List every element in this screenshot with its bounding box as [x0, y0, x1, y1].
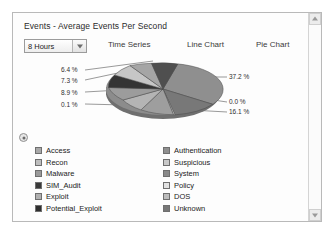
- scrollbar-track[interactable]: [309, 25, 321, 209]
- legend-label: Recon: [46, 159, 68, 167]
- legend-item-exploit[interactable]: Exploit: [35, 191, 163, 203]
- legend-item-authentication[interactable]: Authentication: [163, 145, 291, 157]
- pie-label-right-0: 37.2 %: [229, 73, 249, 80]
- time-range-value: 8 Hours: [25, 42, 54, 51]
- chevron-down-icon[interactable]: [72, 40, 86, 52]
- time-range-select[interactable]: 8 Hours: [24, 39, 87, 53]
- legend-swatch-icon: [35, 147, 42, 154]
- legend-swatch-icon: [35, 159, 42, 166]
- legend-label: System: [174, 170, 199, 178]
- legend-item-unknown[interactable]: Unknown: [163, 203, 291, 215]
- legend-swatch-icon: [163, 193, 170, 200]
- legend-label: Suspicious: [174, 159, 210, 167]
- legend-item-system[interactable]: System: [163, 168, 291, 180]
- legend-swatch-icon: [35, 182, 42, 189]
- legend-swatch-icon: [35, 170, 42, 177]
- tab-line-chart[interactable]: Line Chart: [187, 40, 224, 49]
- legend-item-dos[interactable]: DOS: [163, 191, 291, 203]
- vertical-scrollbar[interactable]: [308, 13, 321, 221]
- legend-label: Potential_Exploit: [46, 205, 102, 213]
- pie-chart: 6.4 % 7.3 % 8.9 % 0.1 % 37.2 % 0.0 % 16.…: [13, 59, 309, 131]
- screenshot-root: Events - Average Events Per Second 8 Hou…: [0, 0, 336, 246]
- chart-toolbar: 8 Hours Time Series Line Chart Pie Chart: [24, 39, 304, 55]
- page-title: Events - Average Events Per Second: [24, 21, 167, 31]
- chart-legend: Access Recon Malware SIM_Audit Exploit: [35, 145, 297, 214]
- pie-label-left-0: 6.4 %: [61, 66, 78, 73]
- legend-item-policy[interactable]: Policy: [163, 180, 291, 192]
- legend-column-right: Authentication Suspicious System Policy …: [163, 145, 291, 214]
- pie-label-right-1: 0.0 %: [229, 98, 246, 105]
- legend-item-recon[interactable]: Recon: [35, 157, 163, 169]
- legend-label: Authentication: [174, 147, 222, 155]
- pie-label-left-1: 7.3 %: [61, 77, 78, 84]
- legend-item-potential-exploit[interactable]: Potential_Exploit: [35, 203, 163, 215]
- collapse-circle-icon[interactable]: [19, 133, 28, 142]
- pie-label-right-2: 16.1 %: [229, 108, 249, 115]
- legend-swatch-icon: [163, 147, 170, 154]
- pie-chart-graphic: [13, 59, 309, 131]
- scroll-up-arrow-icon[interactable]: [309, 13, 321, 25]
- legend-label: Exploit: [46, 193, 69, 201]
- legend-swatch-icon: [163, 170, 170, 177]
- pie-label-left-2: 8.9 %: [61, 89, 78, 96]
- legend-swatch-icon: [163, 182, 170, 189]
- legend-item-sim-audit[interactable]: SIM_Audit: [35, 180, 163, 192]
- pie-label-left-3: 0.1 %: [61, 101, 78, 108]
- legend-label: DOS: [174, 193, 190, 201]
- events-chart-panel: Events - Average Events Per Second 8 Hou…: [12, 12, 322, 222]
- legend-column-left: Access Recon Malware SIM_Audit Exploit: [35, 145, 163, 214]
- legend-label: Access: [46, 147, 70, 155]
- scroll-down-arrow-icon[interactable]: [309, 209, 321, 221]
- tab-pie-chart[interactable]: Pie Chart: [256, 40, 289, 49]
- legend-label: SIM_Audit: [46, 182, 81, 190]
- legend-swatch-icon: [163, 159, 170, 166]
- legend-item-malware[interactable]: Malware: [35, 168, 163, 180]
- legend-label: Malware: [46, 170, 74, 178]
- legend-swatch-icon: [35, 193, 42, 200]
- legend-swatch-icon: [163, 205, 170, 212]
- legend-item-access[interactable]: Access: [35, 145, 163, 157]
- legend-swatch-icon: [35, 205, 42, 212]
- legend-item-suspicious[interactable]: Suspicious: [163, 157, 291, 169]
- tab-time-series[interactable]: Time Series: [108, 40, 150, 49]
- legend-label: Policy: [174, 182, 194, 190]
- legend-label: Unknown: [174, 205, 205, 213]
